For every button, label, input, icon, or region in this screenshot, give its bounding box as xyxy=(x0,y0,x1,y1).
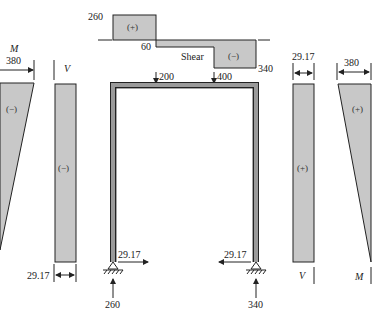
shear-sign-negative: (−) xyxy=(228,51,239,61)
left-shear-label: V xyxy=(64,63,72,74)
shear-value-260: 260 xyxy=(88,11,103,22)
left-moment-value: 380 xyxy=(6,55,21,66)
shear-negative-block xyxy=(156,40,256,68)
right-shear-diagram: 29.17 (+) V xyxy=(292,51,315,284)
left-moment-sign: (−) xyxy=(6,104,17,114)
reaction-h-right: 29.17 xyxy=(224,249,247,260)
left-support: 29.17 260 xyxy=(103,249,148,310)
right-shear-sign: (+) xyxy=(297,163,308,173)
left-shear-diagram: V (−) 29.17 xyxy=(27,60,76,282)
pin-support-right xyxy=(251,262,261,269)
shear-value-340: 340 xyxy=(258,63,273,74)
shear-value-60: 60 xyxy=(141,41,151,52)
beam-loads: 200 400 xyxy=(156,71,232,83)
reaction-v-right: 340 xyxy=(248,299,263,310)
load-label-400: 400 xyxy=(217,71,232,82)
frame-diagram: 260 60 340 (+) (−) Shear 200 400 29.17 2… xyxy=(0,0,382,312)
right-moment-label: M xyxy=(354,271,364,282)
left-shear-shape xyxy=(55,84,76,262)
pin-support-left xyxy=(108,262,118,269)
reaction-h-left: 29.17 xyxy=(118,249,141,260)
beam-shear-diagram: 260 60 340 (+) (−) Shear xyxy=(88,11,273,74)
left-shear-value: 29.17 xyxy=(27,270,50,281)
shear-title: Shear xyxy=(181,51,204,62)
right-moment-value: 380 xyxy=(344,57,359,68)
left-moment-label: M xyxy=(9,43,19,54)
right-shear-shape xyxy=(293,84,314,262)
reaction-v-left: 260 xyxy=(105,299,120,310)
load-label-200: 200 xyxy=(159,71,174,82)
left-shear-sign: (−) xyxy=(58,163,69,173)
left-moment-diagram: M 380 (−) xyxy=(0,43,34,250)
portal-frame xyxy=(113,85,256,262)
shear-sign-positive: (+) xyxy=(127,22,138,32)
right-shear-label: V xyxy=(299,270,307,281)
right-shear-value: 29.17 xyxy=(292,51,315,62)
right-moment-sign: (+) xyxy=(352,104,363,114)
right-moment-diagram: 380 (+) M xyxy=(337,57,371,284)
